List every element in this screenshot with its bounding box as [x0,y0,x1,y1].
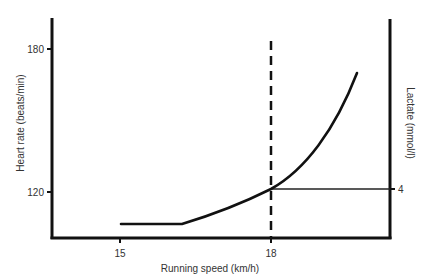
x-axis-title: Running speed (km/h) [161,263,259,274]
lactate-threshold-chart: 180 120 15 18 4 Running speed (km/h) Hea… [0,0,431,280]
y2-tick-label-4: 4 [398,184,404,195]
x-tick-label-18: 18 [265,248,277,259]
lactate-curve [121,73,357,224]
y-axis-title: Heart rate (beats/min) [15,74,26,171]
y-tick-label-120: 120 [27,187,44,198]
x-tick-label-15: 15 [114,248,126,259]
y2-axis-title: Lactate (mmol/l) [405,87,416,159]
y-tick-label-180: 180 [27,44,44,55]
